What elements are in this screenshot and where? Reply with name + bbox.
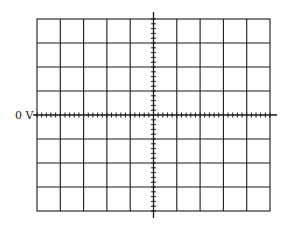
zero-volt-label: 0 V: [15, 109, 34, 122]
oscilloscope-graticule: 0 V: [0, 0, 290, 230]
